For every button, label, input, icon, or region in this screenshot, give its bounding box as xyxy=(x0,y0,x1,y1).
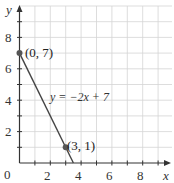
y-tick-label: 6 xyxy=(5,61,12,76)
equation-label: y = −2x + 7 xyxy=(49,90,110,104)
x-tick-label: 6 xyxy=(106,168,113,183)
x-axis-label: x xyxy=(162,168,169,183)
x-tick-label: 4 xyxy=(75,168,82,183)
y-tick-label: 8 xyxy=(5,30,12,45)
point-label-a: (0, 7) xyxy=(25,45,53,60)
point-marker xyxy=(17,50,23,56)
origin-label: 0 xyxy=(4,167,11,182)
x-tick-label: 8 xyxy=(137,168,144,183)
x-axis-arrow-icon xyxy=(164,160,171,166)
x-tick-label: 2 xyxy=(44,168,51,183)
grid-lines xyxy=(20,6,174,163)
point-label-b: (3, 1) xyxy=(67,138,95,153)
y-tick-label: 2 xyxy=(5,124,12,139)
line-graph: y x 0 2 4 6 8 2 4 6 8 (0, 7) (3, 1) y = … xyxy=(0,0,173,183)
y-tick-label: 4 xyxy=(5,93,12,108)
y-axis-label: y xyxy=(4,2,12,17)
